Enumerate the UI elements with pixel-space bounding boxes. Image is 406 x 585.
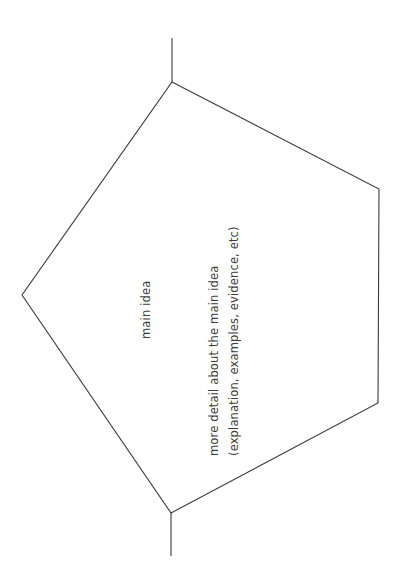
detail-label-line-1: more detail about the main idea [209, 266, 221, 456]
organizer-page: main idea more detail about the main ide… [0, 0, 406, 585]
organizer-shape [0, 0, 406, 585]
main-idea-label: main idea [141, 281, 153, 339]
detail-label-line-2: (explanation, examples, evidence, etc) [229, 226, 241, 456]
pentagon-outline [22, 82, 379, 513]
